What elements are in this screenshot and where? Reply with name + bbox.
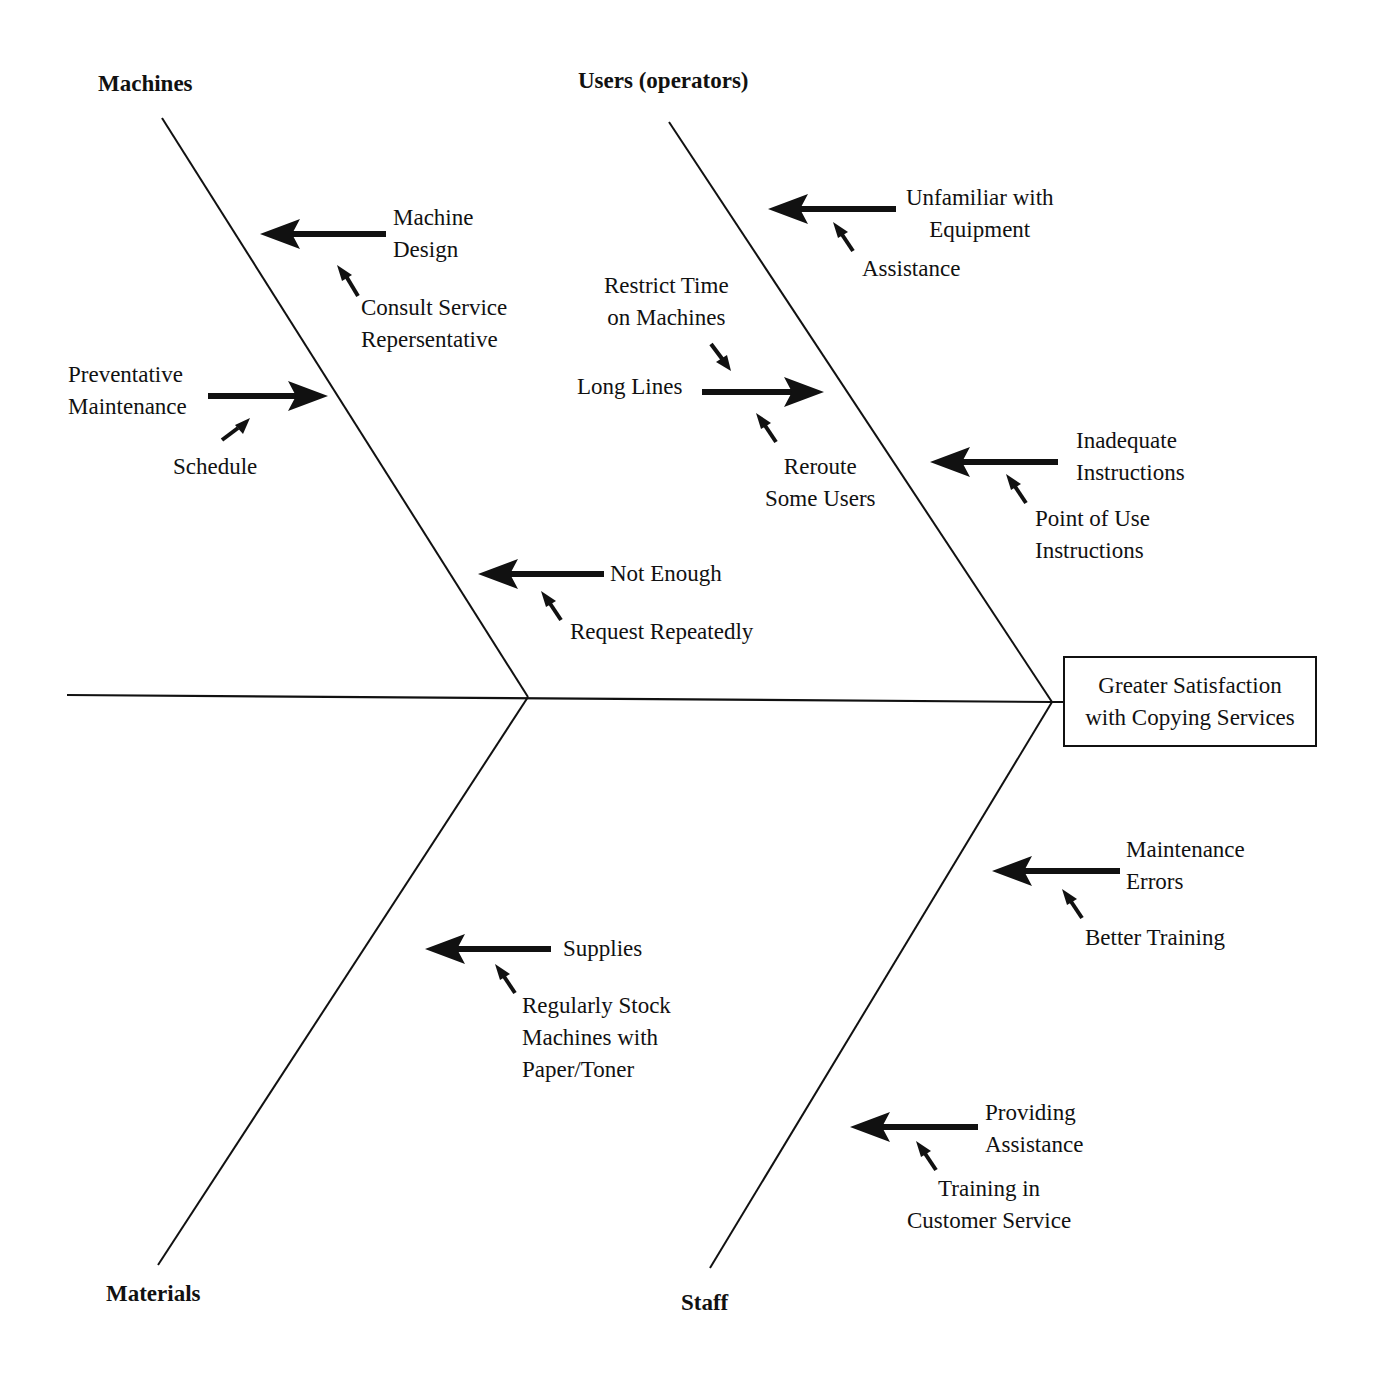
arrow-machine-design — [260, 219, 386, 249]
spine-line — [67, 695, 1052, 702]
cause-maintenance-errors: Maintenance Errors — [1126, 834, 1245, 898]
solution-line: on Machines — [604, 302, 729, 334]
solution-line: Repersentative — [361, 324, 507, 356]
cause-line: Unfamiliar with — [906, 182, 1054, 214]
arrow-inadequate — [930, 447, 1058, 477]
arrow-not-enough — [478, 559, 604, 589]
solution-point-of-use: Point of Use Instructions — [1035, 503, 1150, 567]
category-staff: Staff — [681, 1287, 728, 1319]
solution-line: Instructions — [1035, 535, 1150, 567]
small-arrow-training-cs — [916, 1141, 936, 1170]
cause-line: Instructions — [1076, 457, 1185, 489]
effect-line-2: with Copying Services — [1065, 702, 1315, 734]
cause-inadequate-instructions: Inadequate Instructions — [1076, 425, 1185, 489]
solution-line: Some Users — [765, 483, 876, 515]
solution-schedule: Schedule — [173, 451, 257, 483]
arrow-unfamiliar — [768, 194, 896, 224]
cause-long-lines: Long Lines — [577, 371, 682, 403]
cause-supplies: Supplies — [563, 933, 642, 965]
bone-materials — [158, 697, 528, 1265]
cause-not-enough: Not Enough — [610, 558, 722, 590]
small-arrow-assistance — [833, 222, 853, 251]
solution-line: Training in — [907, 1173, 1071, 1205]
cause-line: Design — [393, 234, 473, 266]
solution-line: Point of Use — [1035, 503, 1150, 535]
arrow-providing-assistance — [850, 1112, 978, 1142]
effect-box: Greater Satisfaction with Copying Servic… — [1063, 656, 1317, 747]
solution-line: Regularly Stock — [522, 990, 671, 1022]
solution-better-training: Better Training — [1085, 922, 1225, 954]
cause-line: Assistance — [985, 1129, 1083, 1161]
solution-regularly-stock: Regularly Stock Machines with Paper/Tone… — [522, 990, 671, 1086]
small-arrow-request — [541, 591, 561, 620]
cause-line: Errors — [1126, 866, 1245, 898]
cause-line: Providing — [985, 1097, 1083, 1129]
cause-line: Maintenance — [1126, 834, 1245, 866]
solution-line: Machines with — [522, 1022, 671, 1054]
arrow-long-lines — [702, 377, 824, 407]
arrow-preventative-maintenance — [208, 381, 328, 411]
category-users: Users (operators) — [578, 65, 749, 97]
effect-line-1: Greater Satisfaction — [1065, 670, 1315, 702]
cause-line: Machine — [393, 202, 473, 234]
cause-line: Maintenance — [68, 391, 187, 423]
small-arrow-restrict — [711, 344, 731, 371]
solution-line: Restrict Time — [604, 270, 729, 302]
solution-reroute: Reroute Some Users — [765, 451, 876, 515]
cause-preventative-maintenance: Preventative Maintenance — [68, 359, 187, 423]
small-arrow-reroute — [756, 413, 776, 442]
solution-line: Consult Service — [361, 292, 507, 324]
cause-unfamiliar: Unfamiliar with Equipment — [906, 182, 1054, 246]
small-arrow-better-training — [1062, 889, 1082, 918]
cause-line: Equipment — [906, 214, 1054, 246]
arrow-supplies — [425, 934, 551, 964]
solution-line: Reroute — [765, 451, 876, 483]
small-arrow-regularly-stock — [495, 964, 515, 993]
solution-restrict-time: Restrict Time on Machines — [604, 270, 729, 334]
cause-line: Preventative — [68, 359, 187, 391]
cause-providing-assistance: Providing Assistance — [985, 1097, 1083, 1161]
arrow-maintenance-errors — [992, 856, 1120, 886]
solution-assistance: Assistance — [862, 253, 960, 285]
small-arrow-point-of-use — [1006, 474, 1026, 503]
cause-machine-design: Machine Design — [393, 202, 473, 266]
category-materials: Materials — [106, 1278, 201, 1310]
cause-line: Inadequate — [1076, 425, 1185, 457]
solution-training-customer-service: Training in Customer Service — [907, 1173, 1071, 1237]
solution-consult-service: Consult Service Repersentative — [361, 292, 507, 356]
solution-line: Paper/Toner — [522, 1054, 671, 1086]
solution-request-repeatedly: Request Repeatedly — [570, 616, 753, 648]
small-arrow-schedule — [222, 418, 250, 440]
solution-line: Customer Service — [907, 1205, 1071, 1237]
small-arrow-consult — [337, 265, 358, 296]
category-machines: Machines — [98, 68, 193, 100]
